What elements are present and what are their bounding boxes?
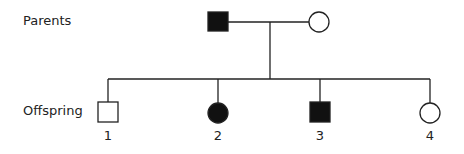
- offspring-label: Offspring: [23, 103, 83, 118]
- offspring-2-number: 2: [208, 128, 228, 143]
- offspring-3-affected-male: [310, 102, 330, 122]
- offspring-4-number: 4: [420, 128, 440, 143]
- offspring-1-number: 1: [98, 128, 118, 143]
- father-affected-male-symbol: [208, 12, 228, 31]
- offspring-1-unaffected-male: [98, 102, 118, 122]
- offspring-2-affected-female: [208, 103, 228, 123]
- offspring-3-number: 3: [310, 128, 330, 143]
- mother-unaffected-female-symbol: [309, 12, 329, 32]
- parents-label: Parents: [23, 13, 71, 28]
- offspring-4-unaffected-female: [420, 103, 440, 123]
- pedigree-diagram: Parents Offspring 1 2 3 4: [0, 0, 464, 154]
